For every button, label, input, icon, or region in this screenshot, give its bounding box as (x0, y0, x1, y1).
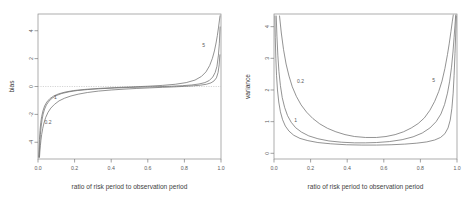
y-tick-label: 2 (28, 57, 34, 60)
y-tick-label: 3 (264, 57, 270, 60)
y-tick-label: -2 (28, 112, 34, 117)
x-tick-label: 1.0 (453, 165, 460, 171)
chart-panel-bias: 0.00.20.40.60.81.0-4-2024ratio of risk p… (0, 0, 235, 203)
x-tick-label: 0.8 (181, 165, 188, 171)
curve-label-0.2: 0.2 (297, 78, 304, 84)
y-tick-label: 0 (28, 85, 34, 88)
x-tick-label: 0.2 (307, 165, 314, 171)
x-axis-title: ratio of risk period to observation peri… (308, 183, 424, 191)
curve-label-1: 1 (294, 117, 297, 123)
x-tick-label: 0.6 (380, 165, 387, 171)
y-tick-label: 1 (264, 120, 270, 123)
y-tick-label: 4 (28, 29, 34, 32)
x-tick-label: 0.6 (144, 165, 151, 171)
bias-plot-svg: 0.00.20.40.60.81.0-4-2024ratio of risk p… (0, 0, 235, 203)
y-tick-label: 2 (264, 88, 270, 91)
curve-label-0.2: 0.2 (45, 119, 52, 125)
x-tick-label: 0.4 (108, 165, 115, 171)
x-axis-title: ratio of risk period to observation peri… (72, 183, 188, 191)
figure-container: 0.00.20.40.60.81.0-4-2024ratio of risk p… (0, 0, 471, 203)
series-curve-0.2 (39, 54, 219, 157)
y-tick-label: 0 (264, 152, 270, 155)
x-tick-label: 1.0 (217, 165, 224, 171)
curve-label-5: 5 (432, 77, 435, 83)
x-tick-label: 0.4 (344, 165, 351, 171)
x-tick-label: 0.2 (71, 165, 78, 171)
curve-label-5: 5 (202, 42, 205, 48)
x-tick-label: 0.0 (34, 165, 41, 171)
x-tick-label: 0.8 (417, 165, 424, 171)
chart-panel-variance: 0.00.20.40.60.81.001234ratio of risk per… (236, 0, 471, 203)
y-tick-label: 4 (264, 25, 270, 28)
y-tick-label: -4 (28, 140, 34, 145)
series-curve-0.2 (279, 15, 453, 138)
x-tick-label: 0.0 (270, 165, 277, 171)
y-axis-title: bias (8, 80, 15, 93)
y-axis-title: variance (244, 74, 251, 99)
variance-plot-svg: 0.00.20.40.60.81.001234ratio of risk per… (236, 0, 471, 203)
curve-label-1: 1 (54, 94, 57, 100)
